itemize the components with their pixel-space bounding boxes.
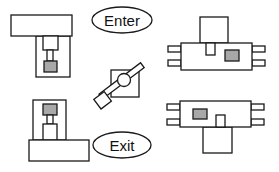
pivot-circle bbox=[118, 74, 131, 87]
lower-left-base-plate bbox=[29, 140, 89, 161]
lower-right-right-tab-2 bbox=[251, 119, 264, 125]
exit-node: Exit bbox=[93, 132, 151, 158]
upper-right-top-box bbox=[200, 17, 228, 43]
lower-left-fixture bbox=[29, 100, 89, 161]
lower-left-piston bbox=[43, 124, 57, 140]
lower-right-right-tab-1 bbox=[251, 104, 264, 110]
lower-right-slider bbox=[216, 115, 225, 127]
upper-right-right-tab-1 bbox=[252, 46, 265, 52]
enter-node: Enter bbox=[92, 7, 152, 33]
lower-left-sensor bbox=[43, 104, 57, 115]
lower-right-left-tab-1 bbox=[167, 104, 180, 110]
exit-label: Exit bbox=[109, 137, 135, 154]
enter-label: Enter bbox=[104, 12, 140, 29]
upper-right-sensor bbox=[225, 50, 239, 61]
upper-left-top-plate bbox=[11, 15, 72, 36]
upper-left-stem bbox=[47, 50, 53, 61]
lower-left-stem bbox=[47, 115, 53, 124]
lower-right-left-tab-2 bbox=[167, 119, 180, 125]
lower-right-bottom-box bbox=[203, 127, 232, 153]
upper-right-fixture bbox=[168, 17, 265, 70]
upper-right-left-tab-2 bbox=[168, 60, 181, 66]
diagram-canvas: Enter Exit bbox=[0, 0, 279, 172]
upper-right-left-tab-1 bbox=[168, 46, 181, 52]
upper-left-sensor bbox=[44, 61, 57, 72]
lower-right-sensor bbox=[193, 109, 207, 119]
center-rotating-arm bbox=[94, 63, 144, 109]
upper-right-right-tab-2 bbox=[252, 60, 265, 66]
upper-right-slider bbox=[206, 43, 215, 55]
lower-right-fixture bbox=[167, 101, 264, 153]
upper-left-fixture bbox=[11, 15, 72, 77]
upper-right-body bbox=[181, 43, 252, 70]
upper-left-piston bbox=[43, 36, 58, 50]
